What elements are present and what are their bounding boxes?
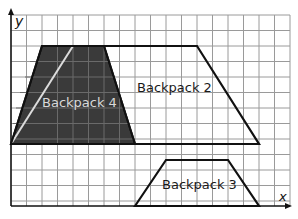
y-axis-label: y [14, 13, 24, 29]
y-axis-arrow-icon [8, 8, 14, 15]
x-axis-label: x [278, 189, 287, 204]
backpack-2-label: Backpack 2 [137, 80, 212, 95]
coordinate-grid-diagram: y x Backpack 4 Backpack 2 Backpack 3 [0, 0, 298, 219]
backpack-3-label: Backpack 3 [162, 177, 237, 192]
backpack-4-label: Backpack 4 [42, 95, 117, 110]
